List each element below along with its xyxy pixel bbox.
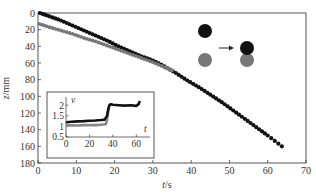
inset-x-tick-label: 0 (64, 139, 69, 149)
x-tick-label: 30 (148, 165, 158, 176)
y-tick-label: 20 (25, 24, 35, 35)
inset-x-tick-label: 60 (132, 139, 142, 149)
data-point-interp (269, 136, 273, 140)
x-tick-label: 0 (36, 165, 41, 176)
y-tick-label: 60 (25, 58, 35, 69)
series-gray-sphere (37, 22, 174, 72)
y-tick-label: 120 (20, 108, 35, 119)
inset-y-tick-label: 0.5 (52, 132, 64, 142)
y-tick-label: 80 (25, 74, 35, 85)
data-point (266, 133, 270, 137)
data-point (170, 69, 174, 73)
x-tick-label: 20 (110, 165, 120, 176)
y-tick-label: 160 (20, 141, 35, 152)
inset-x-tick-label: 20 (85, 139, 95, 149)
sphere-gray-after (240, 53, 254, 67)
inset-chart: 02040600.511.52vt (47, 92, 154, 158)
sphere-black-after (240, 41, 254, 55)
x-tick-label: 10 (71, 165, 81, 176)
x-tick-label: 70 (301, 165, 311, 176)
data-point (280, 144, 284, 148)
y-axis-label: z/mm (0, 77, 11, 100)
y-tick-label: 40 (25, 41, 35, 52)
inset-x-tick-label: 40 (108, 139, 118, 149)
sphere-schematic (198, 24, 254, 67)
sphere-gray-before (198, 53, 212, 67)
y-tick-label: 180 (20, 158, 35, 169)
y-axis-unit: /mm (0, 77, 11, 96)
x-tick-label: 60 (263, 165, 273, 176)
x-tick-label: 40 (186, 165, 196, 176)
right-arrow-icon (229, 46, 234, 51)
inset-y-tick-label: 1 (59, 122, 64, 132)
y-tick-label: 100 (20, 91, 35, 102)
x-tick-label: 50 (224, 165, 234, 176)
sphere-black-before (198, 24, 212, 38)
inset-x-axis-label: t (144, 124, 147, 134)
inset-y-tick-label: 2 (59, 101, 64, 111)
y-tick-label: 140 (20, 124, 35, 135)
data-point-interp (276, 142, 280, 146)
x-axis-unit: /s (165, 179, 172, 190)
x-axis-label: t/s (162, 179, 172, 190)
y-tick-label: 0 (30, 8, 35, 19)
data-point-interp (273, 139, 277, 143)
inset-y-tick-label: 1.5 (52, 111, 64, 121)
chart: 010203040506070020406080100120140160180t… (0, 0, 316, 195)
